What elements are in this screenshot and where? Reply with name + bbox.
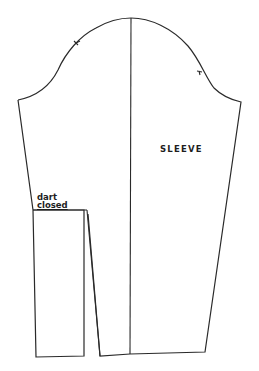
center-grain-line: [130, 18, 131, 354]
dart-label-line2: closed: [37, 201, 68, 209]
dart-closed-label: dart closed: [37, 193, 68, 209]
piece-name-label: SLEEVE: [160, 144, 203, 154]
sleeve-pattern-diagram: [0, 0, 259, 371]
dart-closed-panel: [18, 100, 84, 357]
balance-notch-back-icon: [197, 71, 202, 75]
sleeve-main-outline: [18, 18, 241, 356]
dart-leg-line: [87, 210, 100, 356]
